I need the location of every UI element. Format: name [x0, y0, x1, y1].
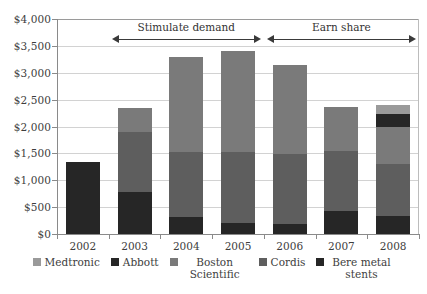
- bar-segment[interactable]: [118, 108, 152, 132]
- legend-item[interactable]: Abbott: [111, 256, 159, 268]
- x-axis-tick: [160, 234, 161, 239]
- y-axis-label: $0: [37, 228, 51, 240]
- bar-segment[interactable]: [221, 51, 255, 152]
- annotation-label-earn-share: Earn share: [312, 21, 371, 33]
- x-axis-tick: [419, 234, 420, 239]
- x-axis-line: [57, 234, 419, 235]
- legend-swatch-icon: [316, 258, 324, 266]
- bar-segment[interactable]: [376, 164, 410, 216]
- arrow-line: [273, 39, 410, 40]
- x-axis-label: 2004: [173, 240, 200, 252]
- stacked-bar-chart: $0$500$1,000$1,500$2,000$2,500$3,000$3,5…: [0, 0, 427, 294]
- legend-item[interactable]: Bere metal stents: [316, 256, 394, 280]
- bar-segment[interactable]: [376, 216, 410, 234]
- x-axis-tick: [212, 234, 213, 239]
- bar-segment[interactable]: [324, 151, 358, 211]
- bar-segment[interactable]: [169, 57, 203, 152]
- arrow-line: [118, 39, 255, 40]
- bar-segment[interactable]: [118, 192, 152, 234]
- bar-segment[interactable]: [324, 211, 358, 234]
- legend-swatch-icon: [33, 258, 41, 266]
- y-axis-label: $4,000: [14, 13, 51, 25]
- legend-item[interactable]: Medtronic: [33, 256, 100, 268]
- x-axis-tick: [316, 234, 317, 239]
- bar-segment[interactable]: [273, 224, 307, 234]
- legend-label: Abbott: [123, 256, 159, 268]
- legend-swatch-icon: [170, 258, 178, 266]
- y-axis-label: $1,000: [14, 174, 51, 186]
- x-axis-label: 2006: [276, 240, 303, 252]
- x-axis-label: 2003: [121, 240, 148, 252]
- x-axis-label: 2002: [69, 240, 96, 252]
- y-axis-label: $3,000: [14, 67, 51, 79]
- arrow-head-right-icon: [409, 35, 416, 43]
- bar-segment[interactable]: [169, 152, 203, 218]
- x-axis-tick: [109, 234, 110, 239]
- x-axis-tick: [367, 234, 368, 239]
- y-axis-label: $500: [24, 201, 51, 213]
- legend-item[interactable]: Cordis: [259, 256, 306, 268]
- bar-segment[interactable]: [221, 223, 255, 234]
- bar-column[interactable]: [376, 105, 410, 234]
- legend-label: Medtronic: [45, 256, 100, 268]
- bars-layer: [57, 19, 419, 234]
- bar-column[interactable]: [221, 51, 255, 234]
- x-axis-label: 2007: [328, 240, 355, 252]
- legend-label: Bere metal stents: [328, 256, 394, 280]
- y-axis-label: $2,500: [14, 94, 51, 106]
- bar-segment[interactable]: [118, 132, 152, 192]
- annotation-label-stimulate-demand: Stimulate demand: [138, 21, 236, 33]
- arrow-head-right-icon: [254, 35, 261, 43]
- legend-swatch-icon: [259, 258, 267, 266]
- bar-segment[interactable]: [66, 162, 100, 234]
- bar-segment[interactable]: [324, 107, 358, 151]
- annotation-arrow-stimulate-demand: [112, 35, 261, 44]
- x-axis-tick: [264, 234, 265, 239]
- legend-label: Boston Scientific: [182, 256, 248, 280]
- x-axis-label: 2008: [380, 240, 407, 252]
- bar-column[interactable]: [273, 65, 307, 234]
- bar-segment[interactable]: [376, 105, 410, 114]
- legend-item[interactable]: Boston Scientific: [170, 256, 248, 280]
- y-axis-label: $1,500: [14, 147, 51, 159]
- legend-swatch-icon: [111, 258, 119, 266]
- bar-column[interactable]: [169, 57, 203, 234]
- arrow-head-left-icon: [112, 35, 119, 43]
- x-axis-tick: [57, 234, 58, 239]
- bar-segment[interactable]: [169, 217, 203, 234]
- bar-segment[interactable]: [376, 127, 410, 165]
- bar-column[interactable]: [324, 107, 358, 234]
- bar-segment[interactable]: [273, 65, 307, 155]
- bar-column[interactable]: [118, 108, 152, 234]
- bar-segment[interactable]: [221, 152, 255, 223]
- legend: MedtronicAbbottBoston ScientificCordisBe…: [0, 256, 427, 280]
- arrow-head-left-icon: [267, 35, 274, 43]
- bar-segment[interactable]: [376, 114, 410, 126]
- y-axis-label: $2,000: [14, 121, 51, 133]
- y-axis-label: $3,500: [14, 40, 51, 52]
- legend-label: Cordis: [271, 256, 306, 268]
- bar-segment[interactable]: [273, 154, 307, 223]
- bar-column[interactable]: [66, 162, 100, 234]
- annotation-arrow-earn-share: [267, 35, 416, 44]
- x-axis-label: 2005: [225, 240, 252, 252]
